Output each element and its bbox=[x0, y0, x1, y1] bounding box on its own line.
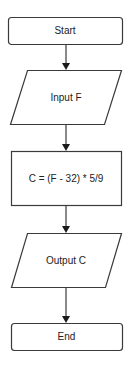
output-node-label: Output C bbox=[16, 233, 116, 287]
arrowhead-icon bbox=[62, 144, 70, 151]
arrowhead-icon bbox=[62, 316, 70, 323]
end-node-label: End bbox=[11, 323, 122, 350]
arrowhead-icon bbox=[62, 63, 70, 70]
start-node-label: Start bbox=[8, 17, 122, 44]
arrowhead-icon bbox=[62, 226, 70, 233]
process-node-label: C = (F - 32) * 5/9 bbox=[11, 151, 121, 205]
input-node-label: Input F bbox=[16, 70, 116, 124]
